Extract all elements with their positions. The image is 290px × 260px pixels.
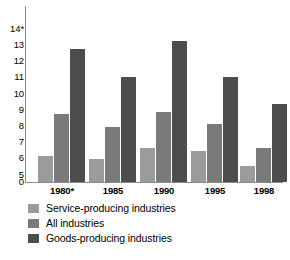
legend-label: Service-producing industries [46, 203, 176, 214]
bar [172, 41, 187, 182]
bar [89, 159, 104, 182]
legend-label: All industries [46, 218, 104, 229]
bar-group [38, 8, 85, 182]
y-tick-label: 0 [0, 177, 24, 187]
y-tick-label: 13 [0, 40, 24, 50]
y-tick-label: 7 [0, 137, 24, 147]
x-tick-label: 1998 [236, 186, 290, 196]
bar [140, 148, 155, 182]
bar [54, 114, 69, 182]
bar [191, 151, 206, 182]
bar [121, 77, 136, 182]
bar [207, 124, 222, 182]
x-tick-label: 1980* [34, 186, 90, 196]
y-tick-label: 6 [0, 153, 24, 163]
bar [105, 127, 120, 182]
bar [70, 49, 85, 182]
bar [272, 104, 287, 182]
bar-group [140, 8, 187, 182]
bar [256, 148, 271, 182]
y-axis-line [25, 6, 26, 183]
y-tick-label: 14* [0, 24, 24, 34]
legend-swatch [28, 219, 39, 228]
x-tick-label: 1995 [187, 186, 243, 196]
x-axis-line [25, 182, 283, 183]
y-tick-label: 10 [0, 89, 24, 99]
bar-group [191, 8, 238, 182]
legend-swatch [28, 234, 39, 243]
y-tick-label: 11 [0, 72, 24, 82]
x-tick-label: 1990 [136, 186, 192, 196]
legend-swatch [28, 204, 39, 213]
legend-label: Goods-producing industries [46, 233, 172, 244]
y-axis-tick-labels: 14*13121110987650 [0, 0, 24, 190]
bar [240, 166, 255, 182]
bar [38, 156, 53, 182]
y-tick-label: 9 [0, 105, 24, 115]
bar-chart-figure: 14*13121110987650 1980*1985199019951998 … [0, 0, 290, 260]
bar-group [89, 8, 136, 182]
y-tick-label: 12 [0, 56, 24, 66]
legend-item: Goods-producing industries [28, 231, 278, 245]
legend-item: Service-producing industries [28, 201, 278, 215]
chart-footnote [2, 252, 288, 260]
legend-item: All industries [28, 216, 278, 230]
x-tick-label: 1985 [85, 186, 141, 196]
plot-area: 14*13121110987650 1980*1985199019951998 [0, 0, 290, 190]
bar-group [240, 8, 287, 182]
y-tick-label: 8 [0, 121, 24, 131]
bar [223, 77, 238, 182]
bar [156, 112, 171, 182]
chart-legend: Service-producing industriesAll industri… [28, 201, 278, 246]
